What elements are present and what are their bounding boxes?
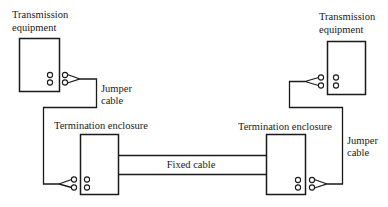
left-transmission-equipment: Transmission equipment	[12, 9, 69, 92]
fixed-cable: Fixed cable	[119, 156, 267, 175]
right-jumper-label-line1: Jumper	[347, 135, 378, 146]
left-enclosure-plug-1	[71, 177, 76, 182]
left-enclosure-plug-2	[71, 185, 76, 190]
right-equipment-label-line2: equipment	[319, 24, 363, 35]
right-transmission-equipment: Transmission equipment	[319, 11, 376, 95]
right-equipment-port-2	[333, 83, 338, 88]
left-equipment-port-1	[47, 72, 52, 77]
right-equipment-port-1	[333, 75, 338, 80]
right-termination-enclosure: Termination enclosure	[238, 121, 332, 195]
left-equipment-plug-1	[62, 72, 67, 77]
right-enclosure-port-2	[295, 185, 300, 190]
right-equipment-plug-2	[318, 83, 323, 88]
left-jumper-label-line1: Jumper	[101, 83, 132, 94]
cabling-diagram: Transmission equipment Jumper cable Term…	[0, 0, 388, 207]
left-equipment-label-line1: Transmission	[12, 9, 69, 20]
right-enclosure-plug-1	[309, 177, 314, 182]
left-enclosure-label: Termination enclosure	[54, 120, 148, 131]
right-jumper-label-line2: cable	[347, 147, 369, 158]
right-enclosure-label: Termination enclosure	[238, 121, 332, 132]
left-termination-enclosure: Termination enclosure	[54, 120, 148, 195]
right-equipment-label-line1: Transmission	[319, 11, 376, 22]
right-enclosure-plug-2	[309, 185, 314, 190]
left-enclosure-port-2	[84, 185, 89, 190]
right-equipment-plug-1	[318, 75, 323, 80]
left-equipment-plug-2	[62, 80, 67, 85]
left-enclosure-plug-fork	[59, 180, 72, 188]
left-enclosure-port-1	[84, 177, 89, 182]
left-equipment-box	[20, 39, 60, 92]
left-jumper-label-line2: cable	[101, 95, 123, 106]
fixed-cable-label: Fixed cable	[167, 159, 216, 170]
left-equipment-port-2	[47, 80, 52, 85]
right-enclosure-port-1	[295, 177, 300, 182]
right-equipment-plug-fork	[305, 78, 319, 86]
left-equipment-label-line2: equipment	[12, 22, 56, 33]
